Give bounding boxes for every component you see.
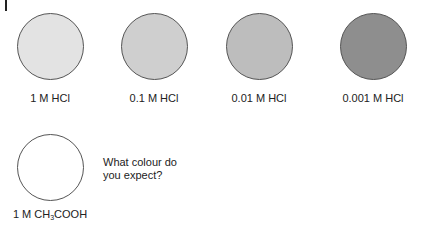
sample-label-0.1m-hcl: 0.1 M HCl [104, 92, 204, 104]
sample-label-1m-hcl: 1 M HCl [0, 92, 100, 104]
sample-circle-0.01m-hcl [226, 13, 293, 80]
sample-circle-0.1m-hcl [121, 13, 188, 80]
sample-circle-1m-hcl [17, 13, 84, 80]
corner-mark [5, 0, 7, 11]
sample-label-0.001m-hcl: 0.001 M HCl [323, 92, 421, 104]
unknown-circle-acetic-acid [17, 134, 84, 201]
sample-label-0.01m-hcl: 0.01 M HCl [209, 92, 309, 104]
question-text: What colour do you expect? [103, 156, 183, 182]
unknown-label-acetic-acid: 1 M CH3COOH [0, 208, 100, 221]
sample-circle-0.001m-hcl [340, 13, 407, 80]
